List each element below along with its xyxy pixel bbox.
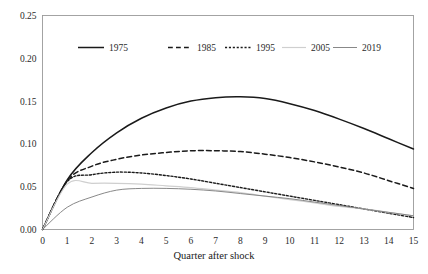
x-tick-label: 7	[213, 236, 218, 246]
legend-label-2005: 2005	[311, 43, 330, 53]
x-tick-label: 11	[310, 236, 319, 246]
x-tick-label: 3	[114, 236, 119, 246]
legend-label-1985: 1985	[197, 43, 216, 53]
y-tick-label: 0.00	[20, 225, 37, 235]
x-tick-label: 15	[409, 236, 419, 246]
legend-label-1975: 1975	[109, 43, 128, 53]
x-tick-label: 10	[285, 236, 295, 246]
x-tick-label: 1	[65, 236, 70, 246]
x-tick-label: 4	[139, 236, 144, 246]
x-tick-label: 12	[335, 236, 345, 246]
x-tick-label: 6	[189, 236, 194, 246]
x-tick-label: 0	[40, 236, 45, 246]
x-axis-title: Quarter after shock	[173, 250, 255, 261]
x-tick-label: 9	[263, 236, 268, 246]
x-tick-label: 5	[164, 236, 169, 246]
y-tick-label: 0.25	[20, 11, 37, 21]
x-tick-label: 8	[238, 236, 243, 246]
y-tick-label: 0.20	[20, 54, 37, 64]
legend-label-2019: 2019	[362, 43, 381, 53]
y-tick-label: 0.05	[20, 182, 37, 192]
x-tick-label: 2	[90, 236, 95, 246]
line-chart: 0.000.050.100.150.200.25 012345678910111…	[0, 0, 428, 274]
y-tick-label: 0.15	[20, 97, 37, 107]
chart-background	[0, 0, 428, 274]
y-tick-label: 0.10	[20, 139, 37, 149]
chart-figure: 0.000.050.100.150.200.25 012345678910111…	[0, 0, 428, 274]
x-tick-label: 14	[384, 236, 394, 246]
x-tick-label: 13	[359, 236, 369, 246]
legend-label-1995: 1995	[256, 43, 275, 53]
